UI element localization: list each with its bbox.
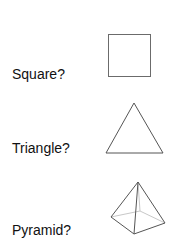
pyramid-icon bbox=[111, 182, 165, 234]
shapes-canvas bbox=[0, 0, 175, 242]
triangle-icon bbox=[106, 103, 163, 153]
square-icon bbox=[109, 35, 151, 77]
